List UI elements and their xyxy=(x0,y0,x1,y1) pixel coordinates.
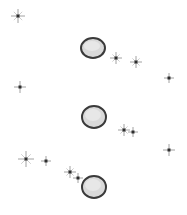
lens-disc-icon xyxy=(82,176,106,198)
lens-disc-icon xyxy=(81,38,105,58)
lens-disc-icon xyxy=(82,106,106,128)
sky-canvas xyxy=(0,0,187,215)
